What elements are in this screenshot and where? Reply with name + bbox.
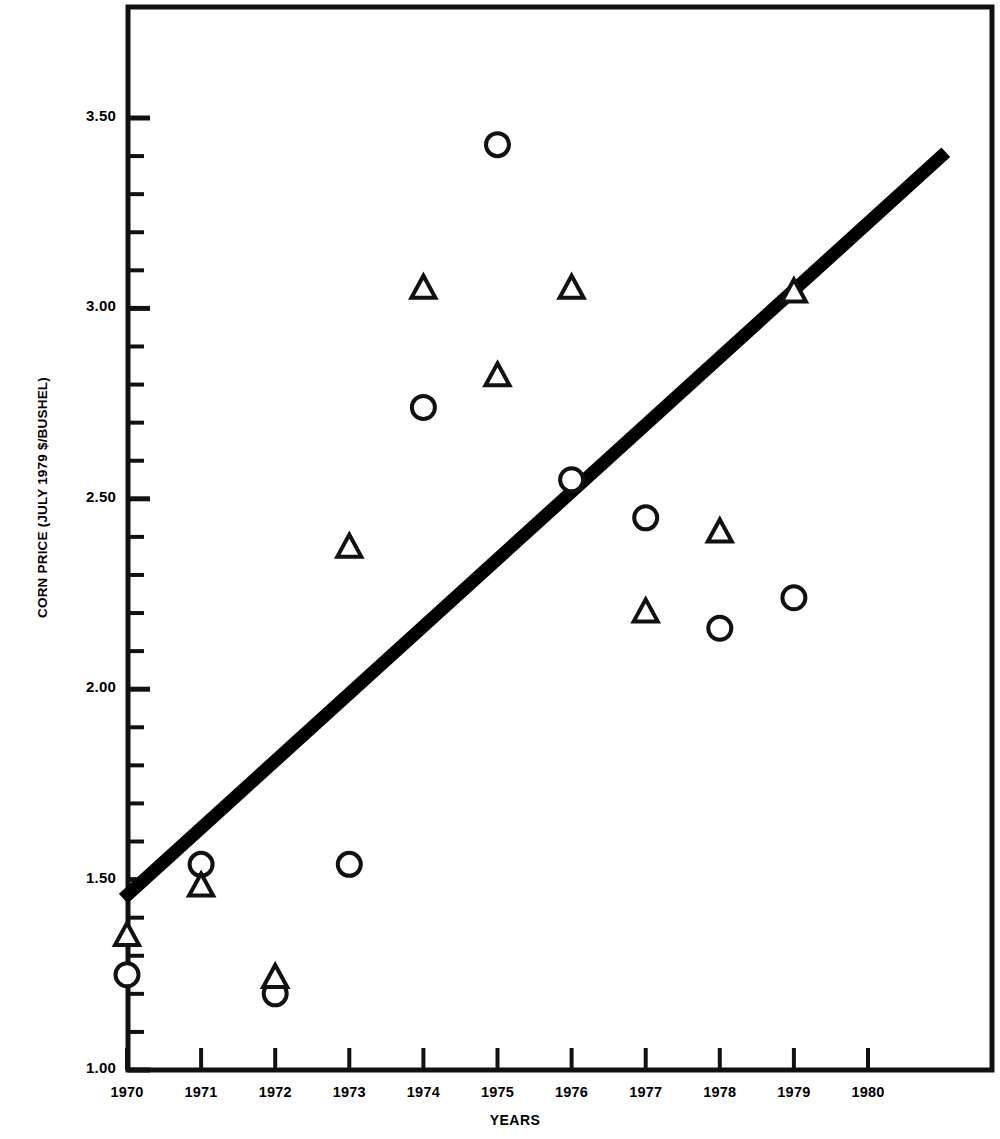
- data-point-triangle: [337, 535, 361, 557]
- data-point-circle: [486, 133, 509, 156]
- data-point-triangle: [263, 965, 287, 987]
- data-point-triangle: [634, 599, 658, 621]
- data-point-triangle: [411, 276, 435, 298]
- data-point-triangle: [189, 874, 213, 896]
- data-point-triangle: [486, 363, 510, 385]
- x-tick-label: 1972: [240, 1084, 310, 1100]
- data-point-circle: [116, 963, 139, 986]
- data-point-circle: [560, 468, 583, 491]
- trend-line: [123, 152, 946, 898]
- y-tick-label: 3.00: [16, 297, 116, 314]
- x-tick-label: 1971: [166, 1084, 236, 1100]
- x-tick-label: 1973: [314, 1084, 384, 1100]
- data-point-circle: [782, 586, 805, 609]
- data-point-circle: [338, 853, 361, 876]
- scatter-plot-svg: [0, 0, 1000, 1139]
- y-tick-label: 1.00: [16, 1059, 116, 1076]
- x-tick-label: 1975: [463, 1084, 533, 1100]
- data-point-triangle: [115, 923, 139, 945]
- chart-canvas: CORN PRICE (JULY 1979 $/BUSHEL) YEARS 1.…: [0, 0, 1000, 1139]
- x-tick-label: 1978: [685, 1084, 755, 1100]
- x-tick-label: 1977: [611, 1084, 681, 1100]
- data-point-circle: [412, 396, 435, 419]
- y-tick-label: 3.50: [16, 107, 116, 124]
- x-tick-label: 1976: [537, 1084, 607, 1100]
- x-tick-label: 1974: [388, 1084, 458, 1100]
- x-tick-label: 1980: [833, 1084, 903, 1100]
- data-point-circle: [708, 617, 731, 640]
- data-point-triangle: [708, 519, 732, 541]
- data-point-circle: [634, 506, 657, 529]
- y-tick-label: 2.00: [16, 678, 116, 695]
- y-tick-label: 1.50: [16, 869, 116, 886]
- plot-frame: [128, 7, 992, 1070]
- x-tick-label: 1970: [92, 1084, 162, 1100]
- y-tick-label: 2.50: [16, 488, 116, 505]
- data-point-triangle: [560, 276, 584, 298]
- x-tick-label: 1979: [759, 1084, 829, 1100]
